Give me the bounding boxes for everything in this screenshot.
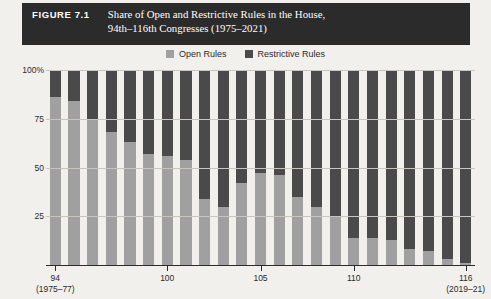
bar-segment-open [143, 154, 154, 265]
bar-segment-open [348, 238, 359, 265]
bar-segment-open [404, 249, 415, 265]
x-axis-tick [261, 266, 262, 271]
x-axis-tick-label-years: (1975–77) [36, 284, 75, 295]
bar-segment-open [274, 175, 285, 265]
gridline [46, 70, 475, 71]
gridline [46, 168, 475, 169]
x-axis-tick-label-main: 116 [459, 273, 473, 283]
bar-segment-open [292, 197, 303, 265]
bar-segment-restrictive [442, 70, 453, 259]
bar-segment-restrictive [106, 70, 117, 132]
bar-segment-open [330, 216, 341, 265]
gridline [46, 216, 475, 217]
bar-segment-restrictive [386, 70, 397, 240]
bar-segment-restrictive [330, 70, 341, 216]
x-axis-tick-label-main: 94 [51, 273, 60, 283]
bar-segment-open [180, 160, 191, 265]
y-axis-tick-label: 25 [35, 211, 44, 221]
bar-segment-open [255, 173, 266, 265]
x-axis-tick-label-main: 105 [253, 273, 267, 283]
bar-segment-restrictive [423, 70, 434, 251]
bar-segment-restrictive [274, 70, 285, 175]
bar-segment-restrictive [348, 70, 359, 238]
y-axis-tick-label: 75 [35, 114, 44, 124]
bar-segment-open [68, 101, 79, 265]
y-axis-tick-label: 100% [22, 65, 44, 75]
bar-segment-restrictive [162, 70, 173, 156]
bar-segment-restrictive [143, 70, 154, 154]
bar-segment-open [386, 240, 397, 265]
bar-segment-restrictive [199, 70, 210, 199]
bar-segment-open [367, 238, 378, 265]
y-axis: 100%755025 [14, 64, 44, 269]
bar-segment-restrictive [404, 70, 415, 249]
x-axis-tick-label-main: 110 [347, 273, 361, 283]
bar-segment-open [162, 156, 173, 265]
x-axis-tick [466, 266, 467, 271]
bar-segment-restrictive [367, 70, 378, 238]
x-axis-tick-label: 100 [160, 273, 174, 284]
bar-segment-restrictive [311, 70, 322, 207]
bars-container [46, 70, 475, 265]
x-axis-tick-label-years: (2019–21) [446, 284, 485, 295]
x-axis-tick-label-main: 100 [160, 273, 174, 283]
bar-segment-restrictive [68, 70, 79, 101]
bar-segment-open [106, 132, 117, 265]
y-axis-tick-label: 50 [35, 163, 44, 173]
bar-segment-restrictive [124, 70, 135, 142]
bar-segment-open [87, 119, 98, 265]
chart-plot-area: 100%755025 94(1975–77)100105110116(2019–… [0, 0, 491, 299]
bar-segment-open [236, 183, 247, 265]
x-axis-labels: 94(1975–77)100105110116(2019–21) [46, 273, 475, 299]
x-axis-tick-label: 116(2019–21) [446, 273, 485, 295]
bar-segment-restrictive [50, 70, 61, 97]
bar-segment-open [50, 97, 61, 265]
bar-segment-restrictive [218, 70, 229, 207]
x-axis-tick-label: 105 [253, 273, 267, 284]
bar-segment-restrictive [292, 70, 303, 197]
x-axis-tick [55, 266, 56, 271]
x-axis-tick [167, 266, 168, 271]
bar-segment-restrictive [180, 70, 191, 160]
x-axis-tick-label: 110 [347, 273, 361, 284]
bar-segment-open [423, 251, 434, 265]
bar-segment-open [124, 142, 135, 265]
bar-segment-restrictive [236, 70, 247, 183]
x-axis-tick-label: 94(1975–77) [36, 273, 75, 295]
bar-segment-restrictive [255, 70, 266, 173]
x-axis-tick [354, 266, 355, 271]
gridline [46, 119, 475, 120]
bar-segment-open [199, 199, 210, 265]
bar-segment-restrictive [87, 70, 98, 119]
x-axis-ticks [46, 266, 475, 272]
